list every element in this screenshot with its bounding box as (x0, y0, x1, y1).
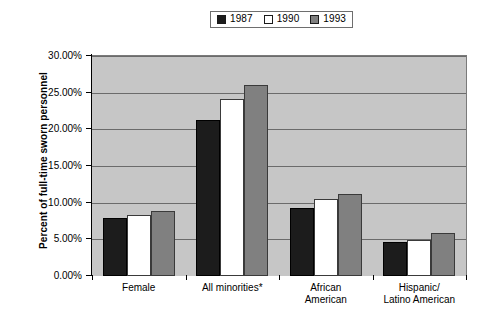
bar-groups (92, 56, 466, 276)
bars (92, 56, 186, 276)
bar-chart: 1987 1990 1993 Percent of full-time swor… (0, 0, 487, 314)
x-axis-category-label: All minorities* (186, 282, 280, 294)
bar-1987-4 (383, 242, 407, 276)
x-axis-tick (92, 275, 93, 280)
bar-1993-3 (338, 194, 362, 276)
legend-swatch-1993 (310, 15, 319, 24)
bar-group (373, 56, 467, 276)
bar-1990-2 (220, 99, 244, 276)
bars (279, 56, 373, 276)
legend-label-1993: 1993 (323, 14, 346, 24)
bar-1987-2 (196, 120, 220, 276)
bar-1987-1 (103, 218, 127, 276)
legend-label-1987: 1987 (230, 14, 253, 24)
bar-1990-1 (127, 215, 151, 276)
bar-1993-4 (431, 233, 455, 276)
x-axis-category-label: Female (92, 282, 186, 294)
bar-1990-3 (314, 199, 338, 276)
x-axis-tick (279, 275, 280, 280)
legend-item-1990: 1990 (264, 14, 300, 24)
bar-group (92, 56, 186, 276)
y-axis-tick-label: 15.00% (0, 160, 87, 171)
y-axis-tick-label: 0.00% (0, 270, 87, 281)
legend-swatch-1987 (217, 15, 226, 24)
y-axis-tick-label: 10.00% (0, 196, 87, 207)
y-axis-tick-label: 25.00% (0, 86, 87, 97)
x-axis-category-label: AfricanAmerican (279, 282, 373, 306)
chart-legend: 1987 1990 1993 (210, 11, 353, 28)
bar-group (279, 56, 373, 276)
legend-swatch-1990 (264, 15, 273, 24)
x-axis-labels: FemaleAll minorities*AfricanAmericanHisp… (92, 282, 467, 312)
x-axis-tick (466, 275, 467, 280)
x-axis-tick (186, 275, 187, 280)
y-axis-tick-label: 30.00% (0, 50, 87, 61)
legend-label-1990: 1990 (277, 14, 300, 24)
x-axis-category-label: Hispanic/Latino American (373, 282, 467, 306)
bar-group (186, 56, 280, 276)
y-axis-tick-label: 5.00% (0, 233, 87, 244)
bar-1993-2 (244, 85, 268, 276)
bar-1990-4 (407, 240, 431, 276)
bar-1987-3 (290, 208, 314, 276)
legend-item-1987: 1987 (217, 14, 253, 24)
bars (373, 56, 467, 276)
y-axis-labels: 0.00%5.00%10.00%15.00%20.00%25.00%30.00% (0, 0, 87, 314)
bar-1993-1 (151, 211, 175, 276)
bars (186, 56, 280, 276)
x-axis-tick (373, 275, 374, 280)
legend-item-1993: 1993 (310, 14, 346, 24)
y-axis-tick-label: 20.00% (0, 123, 87, 134)
plot-area (92, 55, 467, 276)
